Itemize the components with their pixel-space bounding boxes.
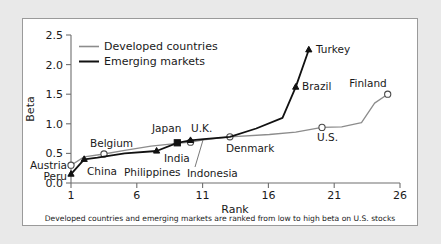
point-label-china: China — [87, 165, 117, 177]
chart-figure: 2.5 2.0 1.5 1.0 0.5 0.0 Beta 1 6 11 16 2… — [22, 18, 418, 226]
x-tick-label-21: 21 — [327, 189, 341, 202]
marker-turkey — [306, 46, 312, 52]
leader-indonesia — [195, 140, 203, 167]
point-label-uk: U.K. — [191, 122, 212, 134]
emerging-markets-line — [71, 50, 309, 174]
y-tick-label-1.0: 1.0 — [46, 118, 64, 131]
chart-canvas: 2.5 2.0 1.5 1.0 0.5 0.0 Beta 1 6 11 16 2… — [23, 19, 417, 225]
legend-label-developed: Developed countries — [104, 40, 218, 53]
point-label-turkey: Turkey — [315, 43, 350, 55]
marker-finland — [385, 91, 391, 97]
y-tick-label-2.0: 2.0 — [46, 59, 64, 72]
point-label-india: India — [164, 152, 190, 164]
point-label-belgium: Belgium — [90, 137, 133, 149]
point-label-japan: Japan — [151, 122, 181, 134]
point-label-peru: Peru — [44, 170, 67, 182]
series-developed-countries — [68, 91, 391, 168]
legend-label-emerging: Emerging markets — [104, 55, 205, 68]
point-label-finland: Finland — [349, 77, 387, 89]
marker-brazil — [293, 84, 299, 90]
chart-legend: Developed countries Emerging markets — [79, 40, 218, 68]
x-tick-label-6: 6 — [133, 189, 140, 202]
point-label-philippines: Philippines — [124, 166, 181, 178]
point-label-brazil: Brazil — [302, 80, 331, 92]
x-tick-label-26: 26 — [393, 189, 407, 202]
point-label-denmark: Denmark — [226, 142, 275, 154]
chart-footnote: Developed countries and emerging markets… — [45, 214, 396, 223]
y-axis-title: Beta — [24, 96, 37, 121]
y-tick-label-1.5: 1.5 — [46, 88, 64, 101]
x-axis: 1 6 11 16 21 26 Rank — [68, 183, 408, 216]
x-tick-label-11: 11 — [196, 189, 210, 202]
marker-japan-india — [174, 140, 180, 146]
marker-us — [319, 124, 325, 130]
point-label-indonesia: Indonesia — [187, 167, 238, 179]
point-label-us: U.S. — [317, 131, 338, 143]
x-tick-label-1: 1 — [68, 189, 75, 202]
marker-austria — [68, 162, 74, 168]
x-tick-label-16: 16 — [261, 189, 275, 202]
y-tick-label-2.5: 2.5 — [46, 29, 64, 42]
